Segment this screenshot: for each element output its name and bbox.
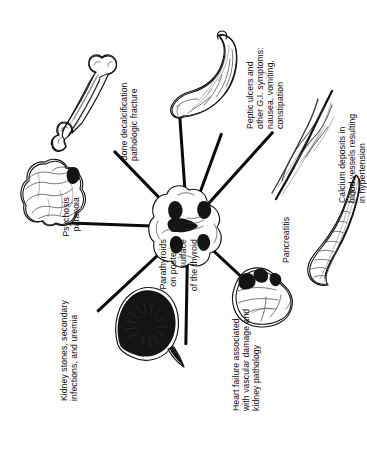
blood-vessels-label: Calcium deposits in blood vessels result… [338,53,367,203]
brain-illustration [18,151,96,237]
stomach-label: Peptic ulcers and other G.I. symptoms: n… [246,0,286,129]
kidney-label: Kidney stones, secondary infections, and… [60,271,80,401]
rotated-artboard: Parathyroids on posterior surface of the… [0,0,367,459]
long-bone-illustration [50,47,120,159]
bone-label: Bone decalcification pathologic fracture [120,29,140,161]
brain-label: Psychosis paranoia [62,197,82,269]
stomach-illustration [166,27,244,127]
diagram-canvas: Parathyroids on posterior surface of the… [0,0,367,459]
heart-label: Heart failure associated with vascular d… [232,267,262,411]
kidney-illustration [110,281,188,375]
